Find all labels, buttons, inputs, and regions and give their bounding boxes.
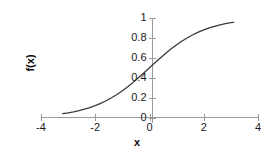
chart-container: 00.20.40.60.81 -4-2024 x f(x) [0, 0, 274, 159]
x-tick-label: 4 [238, 122, 274, 133]
y-tick-label: 0.4 [131, 72, 146, 83]
y-tick-label: 0.6 [131, 52, 146, 63]
x-tick-label: -2 [75, 122, 115, 133]
x-axis-title: x [0, 136, 274, 148]
y-tick-label: 0.8 [131, 32, 146, 43]
x-tick-label: -4 [21, 122, 61, 133]
y-tick-label: 0.2 [131, 92, 146, 103]
y-axis-title: f(x) [24, 46, 36, 80]
x-tick-label: 2 [184, 122, 224, 133]
data-series-line [63, 22, 234, 113]
x-tick-label: 0 [130, 122, 170, 133]
axes [41, 18, 258, 123]
y-tick-label: 1 [140, 12, 146, 23]
